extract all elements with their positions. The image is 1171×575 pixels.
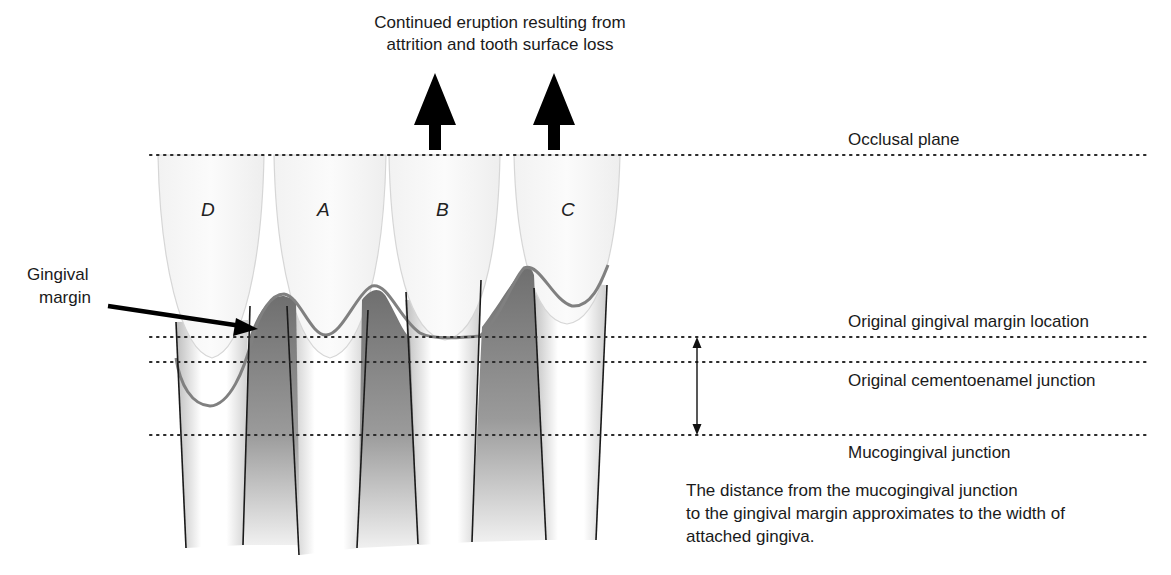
tooth-label-d: D [201,199,215,221]
eruption-arrow-2 [533,73,575,150]
tooth-label-c: C [561,199,575,221]
original-cej-label: Original cementoenamel junction [848,370,1096,391]
occlusal-plane-label: Occlusal plane [848,129,960,150]
mucogingival-junction-label: Mucogingival junction [848,442,1011,463]
eruption-arrow-1 [414,73,456,150]
title-line-2: attrition and tooth surface loss [340,34,660,55]
tooth-label-a: A [317,199,330,221]
attached-gingiva-arrow [693,337,702,435]
note-line-1: The distance from the mucogingival junct… [686,480,1018,501]
eruption-arrows [414,73,575,150]
crown-B [389,155,500,340]
tooth-label-b: B [436,199,449,221]
note-line-2: to the gingival margin approximates to t… [686,503,1065,524]
gingival-margin-callout-line-1: Gingival [27,264,88,285]
original-gingival-margin-label: Original gingival margin location [848,311,1089,332]
gingival-margin-callout-line-2: margin [39,287,91,308]
note-line-3: attached gingiva. [686,526,815,547]
papilla-B-C [472,268,545,542]
title-line-1: Continued eruption resulting from [340,12,660,33]
